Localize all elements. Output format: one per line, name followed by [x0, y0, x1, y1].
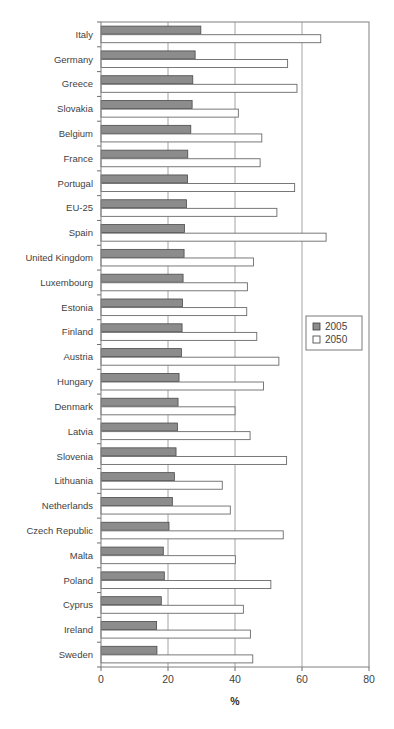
- bar-2050: [101, 506, 230, 514]
- bar-2050: [101, 630, 250, 638]
- category-label: Finland: [62, 326, 93, 337]
- chart-legend: 2005 2050: [306, 316, 362, 350]
- bar-series-group: [101, 26, 326, 663]
- bar-2050: [101, 382, 263, 390]
- category-label: Hungary: [57, 376, 93, 387]
- bar-2005: [101, 497, 172, 505]
- x-tick-label: 20: [162, 673, 174, 685]
- bar-2050: [101, 35, 321, 43]
- bar-2005: [101, 51, 195, 59]
- bar-chart-figure: ItalyGermanyGreeceSlovakiaBelgiumFranceP…: [0, 0, 394, 729]
- bar-2005: [101, 349, 181, 357]
- bar-2005: [101, 249, 184, 257]
- category-label: Sweden: [59, 649, 93, 660]
- category-label: Slovakia: [57, 103, 94, 114]
- category-label: France: [63, 153, 93, 164]
- x-tick-label: 80: [363, 673, 375, 685]
- bar-2005: [101, 398, 178, 406]
- bar-2050: [101, 208, 277, 216]
- x-tick-label: 40: [229, 673, 241, 685]
- bar-2005: [101, 175, 187, 183]
- legend-swatch-2050-icon: [313, 336, 320, 343]
- bar-2005: [101, 150, 188, 158]
- bar-2005: [101, 473, 174, 481]
- category-label: Germany: [54, 54, 93, 65]
- category-label: Cyprus: [63, 599, 93, 610]
- bar-2005: [101, 200, 186, 208]
- category-label: Ireland: [64, 624, 93, 635]
- bar-2005: [101, 125, 191, 133]
- category-axis-labels: ItalyGermanyGreeceSlovakiaBelgiumFranceP…: [25, 29, 93, 660]
- legend-swatch-2005-icon: [313, 323, 320, 330]
- category-label: Italy: [76, 29, 94, 40]
- category-label: Estonia: [61, 302, 93, 313]
- category-label: Greece: [62, 78, 93, 89]
- category-label: Slovenia: [57, 451, 94, 462]
- bar-2005: [101, 597, 161, 605]
- category-label: Lithuania: [54, 475, 93, 486]
- bar-2050: [101, 407, 235, 415]
- bar-2050: [101, 159, 260, 167]
- bar-2005: [101, 299, 182, 307]
- bar-2005: [101, 572, 164, 580]
- bar-2005: [101, 274, 183, 282]
- bar-2050: [101, 134, 262, 142]
- category-label: Poland: [63, 575, 93, 586]
- bar-2050: [101, 332, 257, 340]
- bar-2005: [101, 646, 157, 654]
- bar-2050: [101, 456, 287, 464]
- category-label: United Kingdom: [25, 252, 93, 263]
- bar-2005: [101, 26, 201, 34]
- category-label: Portugal: [58, 178, 93, 189]
- bar-2005: [101, 621, 157, 629]
- bar-2050: [101, 531, 283, 539]
- bar-2050: [101, 84, 297, 92]
- bar-2050: [101, 655, 253, 663]
- bar-2050: [101, 109, 238, 117]
- bar-2050: [101, 481, 222, 489]
- category-label: Luxembourg: [40, 277, 93, 288]
- bar-2050: [101, 605, 243, 613]
- bar-2005: [101, 373, 179, 381]
- bar-2050: [101, 357, 279, 365]
- legend-label-2050: 2050: [325, 334, 348, 345]
- bar-2005: [101, 225, 184, 233]
- category-label: Denmark: [54, 401, 93, 412]
- bar-2005: [101, 76, 193, 84]
- grid-lines: [168, 22, 302, 667]
- chart-canvas: ItalyGermanyGreeceSlovakiaBelgiumFranceP…: [0, 0, 394, 729]
- category-label: Malta: [70, 550, 94, 561]
- bar-2050: [101, 258, 253, 266]
- bar-2005: [101, 423, 177, 431]
- bar-2005: [101, 448, 176, 456]
- category-label: Czech Republic: [26, 525, 93, 536]
- category-label: Belgium: [59, 128, 93, 139]
- bar-2050: [101, 233, 326, 241]
- x-tick-label: 0: [98, 673, 104, 685]
- x-tick-label: 60: [296, 673, 308, 685]
- legend-label-2005: 2005: [325, 321, 348, 332]
- bar-2050: [101, 60, 288, 68]
- category-label: Latvia: [68, 426, 94, 437]
- category-label: EU-25: [66, 202, 93, 213]
- bar-2050: [101, 308, 247, 316]
- x-axis-title: %: [230, 695, 240, 707]
- bar-2050: [101, 580, 271, 588]
- bar-2050: [101, 556, 235, 564]
- category-label: Spain: [69, 227, 93, 238]
- category-label: Netherlands: [42, 500, 93, 511]
- bar-2005: [101, 324, 182, 332]
- bar-2005: [101, 522, 169, 530]
- bar-2050: [101, 184, 295, 192]
- bar-2005: [101, 547, 163, 555]
- bar-2050: [101, 432, 250, 440]
- category-label: Austria: [63, 351, 93, 362]
- bar-2050: [101, 283, 247, 291]
- x-axis-tick-labels: 020406080: [98, 673, 375, 685]
- bar-2005: [101, 101, 192, 109]
